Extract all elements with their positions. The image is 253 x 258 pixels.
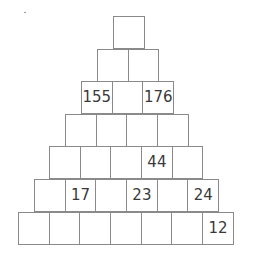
pyramid-row-4 [65, 114, 188, 147]
pyramid-cell[interactable] [141, 212, 173, 245]
pyramid-cell[interactable] [96, 114, 128, 147]
pyramid-cell[interactable] [95, 179, 127, 212]
pyramid-cell[interactable] [34, 179, 66, 212]
pyramid-cell[interactable]: 17 [65, 179, 97, 212]
pyramid-cell[interactable] [113, 16, 145, 49]
pyramid-cell[interactable] [49, 146, 81, 179]
pyramid-row-3: 155 176 [81, 81, 173, 114]
pyramid-cell[interactable] [49, 212, 81, 245]
stray-mark [24, 12, 26, 13]
pyramid-cell[interactable]: 12 [202, 212, 234, 245]
pyramid-cell[interactable] [157, 114, 189, 147]
pyramid-row-6: 17 23 24 [34, 179, 218, 212]
pyramid-cell[interactable] [97, 49, 129, 82]
pyramid-row-1 [113, 16, 144, 49]
pyramid-row-2 [97, 49, 158, 82]
pyramid-cell[interactable] [80, 146, 112, 179]
pyramid-cell[interactable] [157, 179, 189, 212]
number-pyramid: 155 176 44 17 23 24 12 [0, 0, 253, 258]
pyramid-cell[interactable]: 155 [81, 81, 113, 114]
pyramid-cell[interactable] [110, 146, 142, 179]
pyramid-row-7: 12 [18, 212, 233, 245]
pyramid-cell[interactable] [172, 146, 204, 179]
pyramid-cell[interactable]: 23 [126, 179, 158, 212]
pyramid-cell[interactable] [126, 114, 158, 147]
pyramid-cell[interactable] [112, 81, 144, 114]
pyramid-cell[interactable]: 24 [187, 179, 219, 212]
pyramid-cell[interactable] [171, 212, 203, 245]
pyramid-cell[interactable] [18, 212, 50, 245]
pyramid-cell[interactable]: 44 [141, 146, 173, 179]
pyramid-cell[interactable] [65, 114, 97, 147]
pyramid-cell[interactable] [128, 49, 160, 82]
pyramid-cell[interactable] [79, 212, 111, 245]
pyramid-cell[interactable] [110, 212, 142, 245]
pyramid-row-5: 44 [49, 146, 202, 179]
pyramid-cell[interactable]: 176 [142, 81, 174, 114]
